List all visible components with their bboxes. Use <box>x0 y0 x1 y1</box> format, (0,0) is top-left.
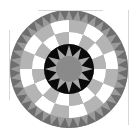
scan-edge-left <box>9 30 10 100</box>
scan-edge-top <box>38 10 103 11</box>
quilt-figure <box>0 0 138 133</box>
center-disk <box>56 56 82 82</box>
scan-edge-right <box>128 10 129 125</box>
quilt-medallion <box>0 0 138 133</box>
